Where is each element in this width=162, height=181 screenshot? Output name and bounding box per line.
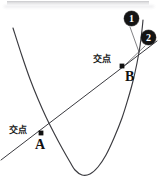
intersection-markers <box>39 64 125 136</box>
leader-line-2 <box>125 46 145 65</box>
callout-badge-1: 1 <box>124 11 139 26</box>
point-marker-a <box>39 131 44 136</box>
leader-line-1 <box>130 27 139 52</box>
point-label-b: B <box>125 70 134 84</box>
intersection-label-b: 交点 <box>93 55 112 64</box>
intersection-label-a: 交点 <box>9 126 28 135</box>
figure-canvas: 交点 交点 B A 1 2 <box>0 0 162 181</box>
callout-badge-2: 2 <box>141 30 156 45</box>
diagram-svg <box>0 0 162 181</box>
secant-line-path <box>1 41 157 160</box>
secant-line <box>1 41 157 160</box>
parabola-path <box>13 20 143 175</box>
parabola-curve <box>13 20 143 175</box>
point-label-a: A <box>35 138 45 152</box>
point-marker-b <box>120 64 125 69</box>
